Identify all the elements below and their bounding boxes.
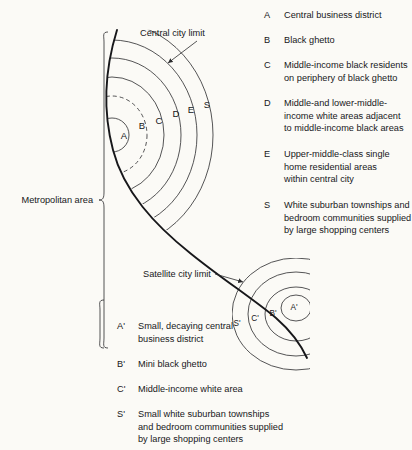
zone-label-E: E: [188, 104, 194, 115]
legend-description: Black ghetto: [284, 34, 412, 47]
zone-label-A-prime: A': [290, 303, 297, 312]
legend-description: Upper-middle-class single home residenti…: [284, 148, 412, 186]
metropolitan-area-label: Metropolitan area: [22, 195, 94, 205]
satellite-city-limit-label: Satellite city limit: [143, 269, 211, 279]
zone-label-C: C: [156, 115, 163, 126]
legend-key: D: [264, 97, 271, 110]
legend-key: C: [264, 59, 271, 72]
legend-key: A: [264, 9, 270, 22]
satellite-city-limit-leader: [215, 274, 243, 282]
legend-key: B': [117, 358, 125, 371]
legend-description: Mini black ghetto: [138, 358, 388, 371]
legend-description: Central business district: [284, 9, 412, 22]
central-city-rings: [11, 22, 213, 248]
legend-description: Middle-income white area: [138, 383, 388, 396]
city-limit-boundary: [106, 30, 307, 358]
legend-key: C': [117, 383, 125, 396]
zone-label-D: D: [173, 108, 180, 119]
zone-label-B: B: [139, 120, 145, 131]
zone-label-B-prime: B': [269, 309, 276, 318]
ring-S: [11, 22, 213, 248]
zone-label-A: A: [121, 130, 128, 141]
legend-key: S: [264, 199, 270, 212]
central-city-limit-label: Central city limit: [140, 28, 205, 38]
zone-label-S: S: [204, 99, 210, 110]
ring-B: [77, 96, 147, 174]
legend-description: Small, decaying central business distric…: [138, 320, 388, 345]
ring-D: [43, 58, 181, 212]
legend-description: Middle-income black residents on periphe…: [284, 59, 412, 84]
legend-description: Middle-and lower-middle- income white ar…: [284, 97, 412, 135]
legend-key: A': [117, 320, 125, 333]
legend-description: Small white suburban townships and bedro…: [138, 408, 388, 446]
legend-description: White suburban townships and bedroom com…: [284, 199, 412, 237]
legend-key: E: [264, 148, 270, 161]
ring-C: [60, 77, 164, 193]
legend-key: B: [264, 34, 270, 47]
legend-key: S': [117, 408, 125, 421]
